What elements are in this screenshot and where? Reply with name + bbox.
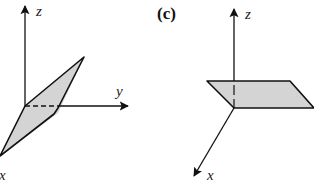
axes-figure: z y x (c) z x <box>0 0 314 187</box>
x-axis-label: x <box>0 167 6 183</box>
x-axis <box>194 108 234 176</box>
panel-label-c: (c) <box>157 4 176 23</box>
y-axis-label: y <box>114 83 123 99</box>
panel-c: (c) z x <box>157 4 314 183</box>
x-axis-label: x <box>206 167 214 183</box>
horizontal-plane <box>207 81 314 108</box>
z-axis-label: z <box>35 3 42 19</box>
z-axis-label: z <box>244 6 251 22</box>
panel-left: z y x <box>0 3 128 183</box>
diagram-canvas: z y x (c) z x <box>0 0 314 187</box>
